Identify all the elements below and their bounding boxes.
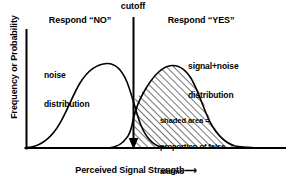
x-axis-label: Perceived Signal Strength⟶ [26, 155, 236, 176]
noise-distribution-label: noise distribution [44, 52, 90, 128]
signal-detection-figure: cutoff Respond “NO” Respond “YES” noise … [0, 0, 288, 176]
noise-distribution-label-line2: distribution [44, 100, 90, 110]
noise-distribution-label-line1: noise [44, 71, 90, 81]
shaded-area-annotation-line1: shaded area = [160, 117, 225, 126]
x-axis-label-text: Perceived Signal Strength [75, 165, 184, 175]
respond-no-label: Respond “NO” [26, 15, 134, 25]
cutoff-label: cutoff [0, 1, 266, 11]
x-axis-arrow-icon: ⟶ [184, 165, 196, 175]
y-axis-label: Frequency or Probability [9, 7, 19, 127]
respond-yes-label: Respond “YES” [134, 15, 268, 25]
signal-noise-distribution-label-line2: distribution [188, 91, 239, 101]
signal-noise-distribution-label-line1: signal+noise [188, 62, 239, 72]
shaded-area-annotation-line2: proportion of false [160, 143, 225, 152]
